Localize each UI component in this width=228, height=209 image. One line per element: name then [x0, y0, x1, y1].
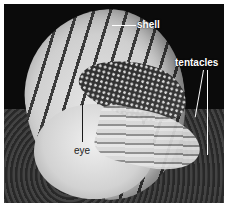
shell-leader-line	[112, 25, 136, 26]
nautilus-photo: shell tentacles eye	[4, 4, 224, 203]
tentacles-leader-line-2	[207, 70, 208, 155]
tentacles-label: tentacles	[175, 57, 218, 69]
eye-leader-line	[82, 104, 83, 142]
eye-label: eye	[74, 145, 90, 157]
shell-label: shell	[137, 19, 160, 31]
